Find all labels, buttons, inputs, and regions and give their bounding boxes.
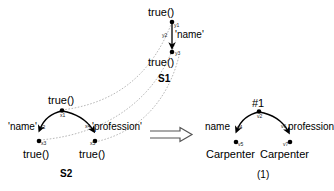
- res-node-v7-dot: [288, 140, 293, 145]
- res-var-v4: v4: [237, 125, 242, 130]
- res-left-leaf-label: Carpenter: [206, 149, 255, 160]
- result-caption: (1): [257, 170, 269, 180]
- res-edge-profession-label: profession: [288, 122, 334, 132]
- res-right-leaf-label: Carpenter: [260, 149, 309, 160]
- res-edge-name-label: name: [205, 122, 230, 132]
- res-var-v5: v5: [238, 142, 243, 147]
- res-var-v2: v2: [257, 114, 262, 119]
- res-var-v6: v6: [281, 124, 286, 129]
- res-root-label: #1: [252, 98, 264, 109]
- res-var-v7: v7: [283, 142, 288, 147]
